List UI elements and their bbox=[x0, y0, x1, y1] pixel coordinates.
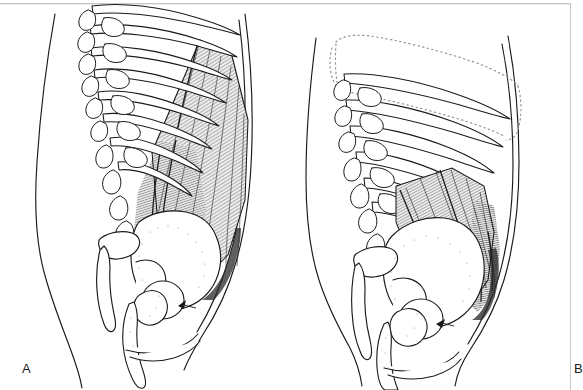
panel-b: B bbox=[288, 0, 576, 390]
panel-label-a: A bbox=[22, 362, 31, 375]
panel-b-illustration bbox=[288, 0, 576, 390]
panel-label-b: B bbox=[574, 362, 583, 375]
panel-a-illustration bbox=[0, 0, 288, 390]
panel-a: A bbox=[0, 0, 288, 390]
